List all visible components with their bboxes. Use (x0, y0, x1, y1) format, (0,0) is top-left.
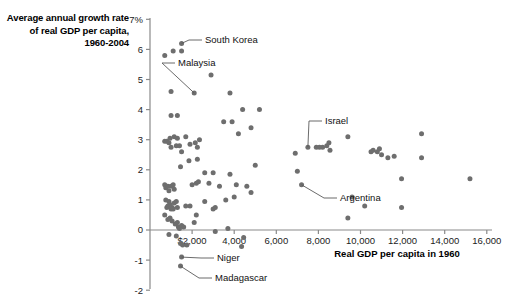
data-point (181, 224, 186, 229)
data-point (202, 170, 207, 175)
data-point (213, 229, 218, 234)
data-point (227, 172, 232, 177)
data-point (162, 212, 167, 217)
x-tick-label: 16,000 (472, 235, 501, 246)
data-point (399, 205, 404, 210)
data-point (174, 199, 179, 204)
data-point (209, 72, 214, 77)
y-tick-label: 2 (138, 164, 143, 175)
data-point (236, 131, 241, 136)
data-point (240, 107, 245, 112)
data-point (202, 199, 207, 204)
data-point (392, 154, 397, 159)
y-tick-label: -1 (135, 255, 143, 266)
data-point (221, 119, 226, 124)
data-point (179, 48, 184, 53)
y-tick-label: 7% (129, 14, 143, 25)
x-tick-label: 10,000 (346, 235, 375, 246)
data-point (227, 91, 232, 96)
scatter-chart: Average annual growth rate of real GDP p… (0, 0, 519, 299)
data-point (194, 212, 199, 217)
data-point (399, 176, 404, 181)
data-point (206, 181, 211, 186)
data-point (178, 164, 183, 169)
data-point (195, 145, 200, 150)
data-point (169, 145, 174, 150)
annotation-leader-line (181, 266, 213, 278)
x-tick-label: 12,000 (388, 235, 417, 246)
data-point (253, 163, 258, 168)
data-point (293, 151, 298, 156)
data-point (234, 182, 239, 187)
data-point (211, 170, 216, 175)
data-point (419, 131, 424, 136)
y-tick-label: 1 (138, 194, 143, 205)
data-point (162, 53, 167, 58)
data-point (172, 187, 177, 192)
data-point (171, 48, 176, 53)
y-tick-label: 0 (138, 224, 143, 235)
data-point (197, 137, 202, 142)
data-point (225, 226, 230, 231)
data-point (196, 179, 201, 184)
data-point (177, 143, 182, 148)
annotation-leader-line (308, 121, 322, 147)
data-point (166, 188, 171, 193)
data-point (193, 140, 198, 145)
data-point (345, 134, 350, 139)
data-point (174, 234, 179, 239)
annotation-leader-line (182, 40, 202, 43)
x-axis-title: Real GDP per capita in 1960 (283, 248, 511, 259)
data-point (192, 220, 197, 225)
data-point (385, 155, 390, 160)
data-point (362, 203, 367, 208)
data-point (166, 140, 171, 145)
data-point (317, 145, 322, 150)
data-point (345, 215, 350, 220)
data-point (232, 194, 237, 199)
y-tick-label: -2 (135, 285, 143, 296)
data-point (175, 220, 180, 225)
data-point (295, 169, 300, 174)
data-point (175, 113, 180, 118)
annotation-label: Madagascar (215, 272, 267, 283)
data-point (171, 182, 176, 187)
y-tick-label: 6 (138, 44, 143, 55)
data-point (169, 89, 174, 94)
data-point (179, 41, 184, 46)
data-point (467, 176, 472, 181)
data-point (186, 158, 191, 163)
data-point (249, 125, 254, 130)
data-point (183, 134, 188, 139)
y-axis-title: Average annual growth rate of real GDP p… (4, 12, 129, 50)
data-point (175, 205, 180, 210)
y-tick-label: 4 (138, 104, 143, 115)
data-point (241, 235, 246, 240)
data-point (377, 146, 382, 151)
data-point (257, 107, 262, 112)
data-point (213, 205, 218, 210)
data-point (239, 244, 244, 249)
annotation-label: South Korea (205, 34, 259, 45)
data-point (166, 232, 171, 237)
data-point (188, 203, 193, 208)
data-point (249, 190, 254, 195)
data-point (379, 152, 384, 157)
annotation-leader-line (182, 257, 214, 258)
data-point (326, 140, 331, 145)
x-tick-label: 6,000 (264, 235, 288, 246)
annotation-leader-line (302, 185, 337, 198)
data-point (223, 197, 228, 202)
data-point (419, 155, 424, 160)
data-point (230, 119, 235, 124)
x-tick-label: 8,000 (307, 235, 331, 246)
data-point (175, 136, 180, 141)
annotation-label: Niger (217, 252, 240, 263)
data-point (299, 182, 304, 187)
data-point (188, 142, 193, 147)
annotation-label: Malaysia (178, 57, 216, 68)
y-tick-label: 5 (138, 74, 143, 85)
data-point (184, 243, 189, 248)
data-point (169, 113, 174, 118)
data-point (217, 184, 222, 189)
